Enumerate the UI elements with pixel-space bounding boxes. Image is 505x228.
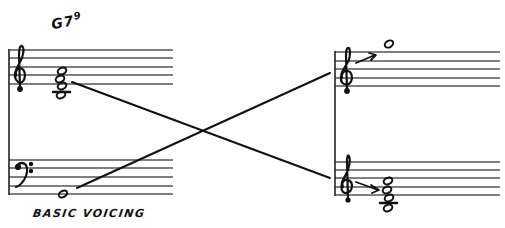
top-whole-note xyxy=(384,39,395,49)
left-chord-notes xyxy=(53,66,70,100)
caption-basic-voicing: BASIC VOICING xyxy=(32,207,146,220)
chord-superscript: 9 xyxy=(73,9,83,21)
voicing-diagram xyxy=(0,0,505,228)
bass-clef-icon xyxy=(16,163,32,187)
connector-chord-to-bottom xyxy=(72,82,330,178)
left-bass-staff xyxy=(9,160,173,194)
left-treble-staff xyxy=(9,50,173,84)
right-top-staff xyxy=(335,52,500,86)
connector-bass-to-top xyxy=(77,73,330,188)
right-bottom-staff xyxy=(335,162,500,195)
